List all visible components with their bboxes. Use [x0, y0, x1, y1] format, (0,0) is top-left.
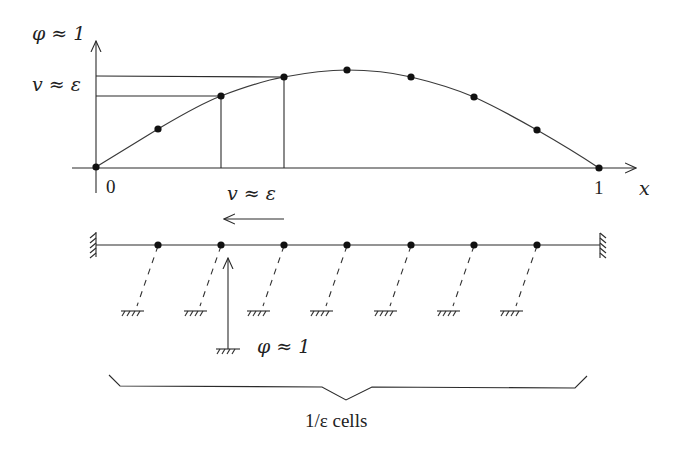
y-axis-label: φ ≈ 1 [32, 22, 85, 44]
curve-point [280, 73, 287, 80]
chain-diagram: φ ≈ 1 v ≈ ε 0 1 x v ≈ ε [0, 0, 675, 457]
x-interval-label: v ≈ ε [227, 182, 276, 204]
mass [217, 241, 224, 248]
ground-icon [310, 311, 333, 316]
mass [407, 241, 414, 248]
mass [343, 241, 350, 248]
force-label: φ ≈ 1 [257, 335, 310, 357]
curve-point [92, 163, 99, 170]
ground-spring [437, 246, 474, 316]
ground-spring [310, 246, 347, 316]
ground-spring [500, 246, 537, 316]
ground-spring [374, 246, 411, 316]
x-origin-label: 0 [106, 176, 116, 197]
ground-icon [184, 311, 207, 316]
ground-springs [121, 246, 537, 316]
curve-point [343, 66, 350, 73]
displacement-curve [96, 70, 599, 168]
displacement-graph: φ ≈ 1 v ≈ ε 0 1 x v ≈ ε [32, 22, 650, 204]
x-axis-label: x [639, 177, 650, 199]
curve-point [217, 92, 224, 99]
ground-icon [374, 311, 397, 316]
brace-label: 1/ε cells [305, 410, 367, 431]
mass [154, 241, 161, 248]
curve-point [154, 125, 161, 132]
x-end-label: 1 [594, 177, 604, 198]
curve-points [92, 66, 602, 171]
ground-icon [121, 311, 144, 316]
curve-point [595, 164, 602, 171]
left-wall-icon [90, 232, 96, 258]
curve-point [407, 73, 414, 80]
mass [280, 241, 287, 248]
y-tick-label: v ≈ ε [32, 73, 81, 95]
guide-horizontal-upper [96, 76, 284, 77]
force-arrow-icon [216, 258, 240, 354]
curve-point [533, 126, 540, 133]
right-wall-icon [600, 233, 606, 258]
mass [470, 241, 477, 248]
ground-spring [184, 246, 221, 316]
ground-icon [500, 311, 523, 316]
mass-spring-chain: φ ≈ 1 1/ε cells [90, 219, 606, 431]
ground-icon [437, 311, 460, 316]
ground-spring [247, 246, 284, 316]
ground-spring [121, 246, 158, 316]
ground-icon [247, 311, 270, 316]
curve-point [470, 93, 477, 100]
mass [533, 241, 540, 248]
cells-brace-icon [109, 375, 587, 400]
